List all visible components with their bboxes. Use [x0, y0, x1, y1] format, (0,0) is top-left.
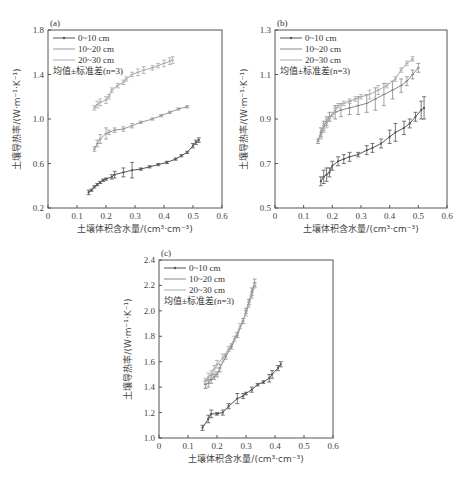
legend-label: 20~30 cm — [78, 55, 114, 65]
data-point — [105, 178, 107, 180]
data-point — [409, 122, 411, 124]
legend-label: 20~30 cm — [305, 55, 341, 65]
data-point — [201, 427, 203, 429]
panel-label: (a) — [50, 18, 60, 28]
y-tick-label: 0.5 — [260, 203, 272, 213]
series-line — [318, 68, 418, 142]
data-point — [277, 367, 279, 369]
x-tick-label: 0.5 — [187, 211, 199, 221]
series-line — [203, 364, 281, 428]
data-point — [195, 141, 197, 143]
y-tick-label: 1.0 — [33, 114, 45, 124]
legend-note: 均值±标准差(n=3) — [280, 65, 350, 76]
legend: 0~10 cm10~20 cm20~30 cm均值±标准差(n=3) — [164, 263, 234, 306]
data-point — [180, 155, 182, 157]
y-tick-label: 1.8 — [33, 25, 45, 35]
figure-canvas: (a)00.10.20.30.40.50.60.20.61.01.41.8土壤体… — [0, 0, 467, 481]
x-tick-label: 0.3 — [240, 441, 252, 451]
data-point — [96, 184, 98, 186]
data-point — [357, 154, 359, 156]
series-10-20-cm — [92, 106, 189, 152]
data-point — [222, 411, 224, 413]
data-point — [257, 384, 259, 386]
series-line — [89, 140, 199, 192]
data-point — [371, 147, 373, 149]
plot-frame — [159, 260, 333, 438]
x-tick-label: 0.5 — [298, 441, 310, 451]
y-tick-label: 0.7 — [260, 159, 272, 169]
x-tick-label: 0.1 — [298, 211, 309, 221]
x-tick-label: 0.1 — [71, 211, 82, 221]
data-point — [331, 165, 333, 167]
data-point — [236, 397, 238, 399]
x-tick-label: 0 — [157, 441, 162, 451]
data-point — [326, 174, 328, 176]
y-tick-label: 0.2 — [33, 203, 44, 213]
x-tick-label: 0.1 — [182, 441, 193, 451]
data-point — [403, 127, 405, 129]
data-point — [157, 164, 159, 166]
legend: 0~10 cm10~20 cm20~30 cm均值±标准差(n=3) — [280, 33, 350, 76]
x-tick-label: 0 — [46, 211, 51, 221]
data-point — [423, 107, 425, 109]
data-point — [166, 161, 168, 163]
plot-frame — [48, 30, 222, 208]
panel-label: (c) — [161, 248, 171, 258]
x-axis-label: 土壤体积含水量/(cm³·cm⁻³) — [188, 453, 303, 464]
x-tick-label: 0.5 — [413, 211, 425, 221]
data-point — [245, 392, 247, 394]
data-point — [228, 405, 230, 407]
data-point — [251, 389, 253, 391]
legend-label: 10~20 cm — [305, 44, 341, 54]
data-point — [207, 418, 209, 420]
chart-panel-2: (c)00.10.20.30.40.50.61.01.21.41.61.82.0… — [122, 248, 339, 464]
y-tick-label: 1.2 — [144, 408, 155, 418]
x-tick-label: 0.4 — [158, 211, 170, 221]
y-tick-label: 1.4 — [33, 70, 45, 80]
y-tick-label: 1.0 — [144, 433, 156, 443]
data-point — [90, 189, 92, 191]
legend-marker — [63, 37, 65, 39]
x-tick-label: 0.2 — [211, 441, 222, 451]
x-tick-label: 0 — [273, 211, 278, 221]
data-point — [420, 109, 422, 111]
y-tick-label: 2.2 — [144, 280, 155, 290]
legend-marker — [290, 37, 292, 39]
data-point — [198, 139, 200, 141]
y-tick-label: 1.8 — [144, 331, 156, 341]
data-point — [102, 179, 104, 181]
data-point — [328, 171, 330, 173]
data-point — [192, 145, 194, 147]
x-tick-label: 0.2 — [327, 211, 338, 221]
chart-panel-0: (a)00.10.20.30.40.50.60.20.61.01.41.8土壤体… — [11, 18, 228, 234]
legend-label: 0~10 cm — [189, 263, 221, 273]
x-tick-label: 0.4 — [269, 441, 281, 451]
data-point — [343, 158, 345, 160]
x-tick-label: 0.2 — [100, 211, 111, 221]
legend-label: 0~10 cm — [78, 33, 110, 43]
y-tick-label: 1.4 — [144, 382, 156, 392]
data-point — [348, 156, 350, 158]
x-tick-label: 0.6 — [441, 211, 453, 221]
x-tick-label: 0.4 — [384, 211, 396, 221]
legend-note: 均值±标准差(n=3) — [53, 65, 123, 76]
x-tick-label: 0.3 — [355, 211, 367, 221]
legend-label: 0~10 cm — [305, 33, 337, 43]
data-point — [280, 363, 282, 365]
data-point — [99, 181, 101, 183]
data-point — [262, 381, 264, 383]
y-axis-label: 土壤导热率/(W·m⁻¹·K⁻¹) — [11, 68, 22, 169]
data-point — [366, 149, 368, 151]
data-point — [394, 131, 396, 133]
data-point — [122, 171, 124, 173]
data-point — [380, 142, 382, 144]
y-tick-label: 2.4 — [144, 255, 156, 265]
y-tick-label: 0.6 — [33, 159, 45, 169]
data-point — [131, 169, 133, 171]
panel-label: (b) — [277, 18, 288, 28]
chart-panel-1: (b)00.10.20.30.40.50.60.50.70.91.11.3土壤体… — [238, 18, 453, 234]
y-tick-label: 1.1 — [260, 70, 271, 80]
data-point — [114, 174, 116, 176]
data-point — [216, 413, 218, 415]
data-point — [140, 168, 142, 170]
